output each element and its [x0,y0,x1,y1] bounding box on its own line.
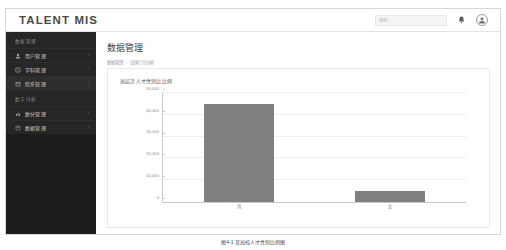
sidebar-item-label: 数分管理 [25,110,46,117]
search-input[interactable]: 搜索... [375,15,447,26]
app-brand-title: TALENT MIS [19,14,98,26]
chart-plot-area: 010,00020,00030,00040,00050,000男女 [162,93,466,203]
y-axis-tick-label: 40,000 [146,109,163,113]
sidebar-item-user-management[interactable]: 用户管理 › [6,48,96,62]
sidebar-item-label: 数据管理 [25,124,46,131]
y-axis-tick-label: 30,000 [146,130,163,134]
breadcrumb-item-1[interactable]: 出国行为分析 [130,59,154,65]
y-axis-tick-label: 0 [157,196,163,200]
sidebar-item-label: 学科管理 [25,66,46,73]
user-icon [15,53,21,59]
sidebar-item-analysis-management[interactable]: 数分管理 › [6,106,96,120]
sidebar-item-subject-management[interactable]: 学科管理 › [6,62,96,76]
y-axis-tick-label: 10,000 [146,174,163,178]
chart-gridline [163,92,466,93]
sidebar-item-label: 院系管理 [25,80,46,87]
chevron-right-icon: › [88,67,90,72]
search-placeholder: 搜索... [379,18,391,23]
chevron-right-icon: › [88,53,90,58]
main-content: 数据管理 数据管理 / 出国行为分析 高层次人才性别比比例 010,00020,… [96,32,501,235]
building-icon [15,81,21,87]
sidebar-item-data-management[interactable]: 数据管理 › [6,120,96,134]
app-header: TALENT MIS 搜索... [6,9,500,32]
y-axis-tick-label: 50,000 [146,87,163,91]
header-actions: 搜索... [375,14,488,26]
bar-chart: 010,00020,00030,00040,00050,000男女 [120,87,480,219]
book-icon [15,67,21,73]
chart-card-title: 高层次人才性别比比例 [108,69,489,84]
chart-bar [355,191,425,202]
figure-caption: 图4-1 某高校人才性别比例图 [0,238,506,245]
chart-card: 高层次人才性别比比例 010,00020,00030,00040,00050,0… [107,68,490,228]
x-axis-tick-label: 男 [237,202,241,209]
bell-icon[interactable] [457,15,466,26]
breadcrumb-item-0[interactable]: 数据管理 [107,59,123,65]
chevron-right-icon: › [88,81,90,86]
breadcrumb-separator: / [126,60,127,65]
chevron-right-icon: › [88,111,90,116]
x-axis-tick-label: 女 [388,202,392,209]
page-title: 数据管理 [96,32,501,54]
sidebar-item-label: 用户管理 [25,52,46,59]
y-axis-tick-label: 20,000 [146,152,163,156]
user-avatar-icon[interactable] [476,14,488,26]
database-icon [15,125,21,131]
breadcrumb: 数据管理 / 出国行为分析 [96,54,501,65]
sidebar-group-title-1: 数字分析 [6,90,96,106]
sidebar-item-department-management[interactable]: 院系管理 › [6,76,96,90]
chevron-right-icon: › [88,125,90,130]
app-window: TALENT MIS 搜索... [5,8,501,235]
chart-icon [15,111,21,117]
chart-bar [204,104,274,202]
sidebar: 数据管理 用户管理 › 学科管理 › 院系管理 › [6,32,96,235]
sidebar-group-title-0: 数据管理 [6,32,96,48]
screenshot-root: TALENT MIS 搜索... [0,0,506,250]
